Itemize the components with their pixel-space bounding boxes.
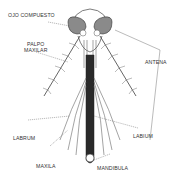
label-palpo-maxilar: PALPO MAXILAR — [24, 41, 47, 53]
label-labrum: LABRUM — [13, 135, 35, 141]
compound-eyes — [68, 17, 112, 36]
label-antena: ANTENA — [145, 59, 167, 65]
proboscis — [60, 55, 120, 163]
mosquito-mouthparts-diagram — [0, 0, 178, 180]
label-maxila: MAXILA — [36, 163, 56, 169]
label-palpo-line2: MAXILAR — [24, 47, 47, 53]
label-ojo-compuesto: OJO COMPUESTO — [8, 12, 55, 18]
label-labium: LABIUM — [133, 133, 153, 139]
label-mandibula: MANDIBULA — [97, 165, 128, 171]
